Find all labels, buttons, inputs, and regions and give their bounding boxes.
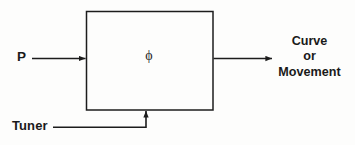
output-label-line-1: Curve (264, 34, 355, 49)
block-diagram: P ϕ Curve or Movement Tuner (0, 0, 355, 145)
phi-symbol: ϕ (141, 48, 157, 64)
tuner-connector-line (53, 111, 146, 127)
output-label-line-3: Movement (264, 65, 355, 80)
output-label: Curve or Movement (264, 34, 355, 80)
input-label: P (17, 50, 26, 64)
output-label-line-2: or (264, 49, 355, 64)
tuner-label: Tuner (12, 119, 48, 132)
